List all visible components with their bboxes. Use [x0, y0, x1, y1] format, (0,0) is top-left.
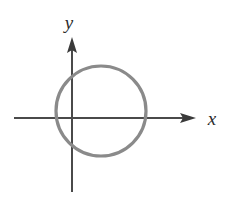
coordinate-plane-figure: y x — [0, 0, 230, 205]
figure-background — [0, 0, 230, 205]
y-axis-label: y — [63, 12, 74, 33]
figure-container: y x — [0, 0, 230, 205]
x-axis-label: x — [207, 108, 217, 129]
